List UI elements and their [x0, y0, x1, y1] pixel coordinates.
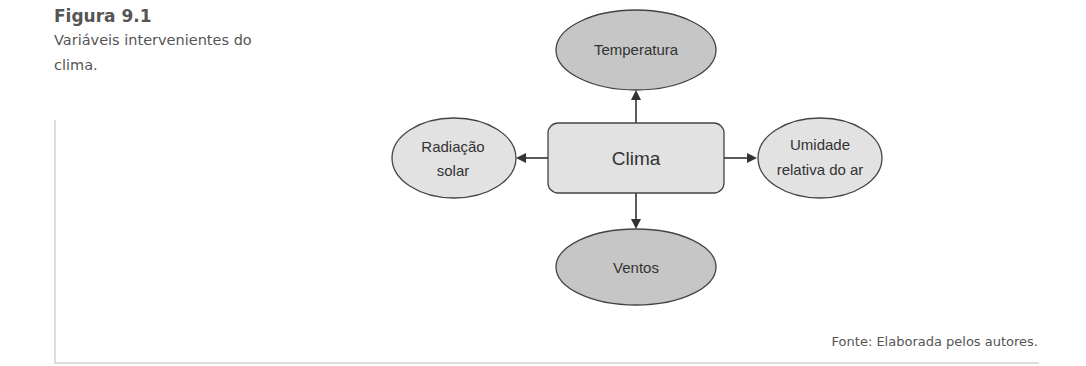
climate-variables-diagram: Temperatura Radiação solar Clima Umidade…	[0, 0, 1086, 366]
node-temperatura-label: Temperatura	[594, 41, 679, 58]
node-temperatura: Temperatura	[556, 10, 716, 90]
node-clima: Clima	[548, 123, 724, 193]
node-clima-label: Clima	[612, 148, 661, 169]
node-radiacao-solar: Radiação solar	[392, 118, 516, 198]
node-umidade-relativa: Umidade relativa do ar	[758, 118, 882, 198]
node-radiacao-label-line2: solar	[437, 162, 470, 179]
node-ventos: Ventos	[556, 229, 716, 305]
figure-source: Fonte: Elaborada pelos autores.	[832, 334, 1038, 349]
node-umidade-label-line2: relativa do ar	[777, 161, 864, 178]
node-ventos-label: Ventos	[613, 259, 659, 276]
node-umidade-label-line1: Umidade	[790, 136, 850, 153]
node-radiacao-label-line1: Radiação	[421, 138, 484, 155]
